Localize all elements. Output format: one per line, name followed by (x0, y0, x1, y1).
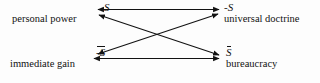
node-top-right-label: universal doctrine (224, 13, 300, 25)
node-bottom-right-symbol: S (226, 47, 277, 58)
node-bottom-left-symbol: -S (96, 47, 105, 58)
node-top-left-symbol: S (104, 2, 110, 13)
node-bottom-right: S bureaucracy (226, 47, 277, 70)
node-top-right-symbol: -S (224, 2, 300, 13)
node-bottom-left-label: immediate gain (10, 58, 105, 70)
edge-diagonal-tr-bl (98, 14, 218, 54)
node-bottom-left: -S immediate gain (96, 47, 105, 70)
node-top-left-label: personal power (12, 13, 110, 25)
node-top-left: S personal power (104, 2, 110, 25)
node-bottom-right-symbol-text: S (226, 47, 232, 58)
node-top-right: -S universal doctrine (224, 2, 300, 25)
edge-diagonal-tl-br (99, 15, 219, 55)
semiotic-square-diagram: S personal power -S universal doctrine -… (0, 0, 320, 83)
node-bottom-left-symbol-text: -S (96, 47, 105, 58)
node-bottom-right-label: bureaucracy (226, 58, 277, 70)
